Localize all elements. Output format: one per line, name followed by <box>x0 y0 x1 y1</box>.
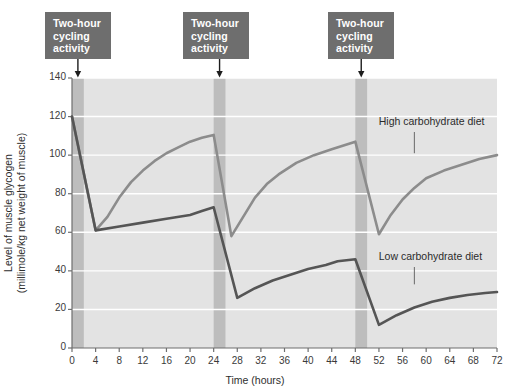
callout-3-line2: cycling <box>336 30 387 43</box>
callout-arrow-head-1 <box>75 71 81 78</box>
callout-3-line3: activity <box>336 42 387 55</box>
callout-box-2: Two-hourcyclingactivity <box>183 12 249 59</box>
exercise-band-3 <box>355 78 367 348</box>
series-label-1: High carbohydrate diet <box>379 115 485 127</box>
y-tick-label-40: 40 <box>26 264 66 275</box>
y-tick-label-140: 140 <box>26 71 66 82</box>
callout-2-line3: activity <box>191 42 242 55</box>
callout-arrow-head-3 <box>358 71 364 78</box>
y-tick-label-20: 20 <box>26 302 66 313</box>
y-axis-title-line2: (millimole/kg net weight of muscle) <box>15 78 28 348</box>
y-axis-title-line1: Level of muscle glycogen <box>2 78 15 348</box>
callout-2-line2: cycling <box>191 30 242 43</box>
y-tick-label-80: 80 <box>26 187 66 198</box>
y-tick-label-0: 0 <box>26 341 66 352</box>
callout-1-line1: Two-hour <box>53 17 104 30</box>
y-axis-title: Level of muscle glycogen(millimole/kg ne… <box>2 78 28 348</box>
callout-1-line3: activity <box>53 42 104 55</box>
callout-box-3: Two-hourcyclingactivity <box>328 12 394 59</box>
callout-box-1: Two-hourcyclingactivity <box>45 12 111 59</box>
callout-1-line2: cycling <box>53 30 104 43</box>
exercise-band-1 <box>72 78 84 348</box>
callout-2-line1: Two-hour <box>191 17 242 30</box>
x-axis-title: Time (hours) <box>0 374 510 386</box>
y-tick-label-120: 120 <box>26 110 66 121</box>
x-tick-label-72: 72 <box>482 355 510 366</box>
callout-3-line1: Two-hour <box>336 17 387 30</box>
chart-figure: 0204060801001201400481216202428323640444… <box>0 0 510 391</box>
series-label-2: Low carbohydrate diet <box>379 250 482 262</box>
callout-arrow-head-2 <box>216 71 222 78</box>
y-tick-label-100: 100 <box>26 148 66 159</box>
y-tick-label-60: 60 <box>26 225 66 236</box>
